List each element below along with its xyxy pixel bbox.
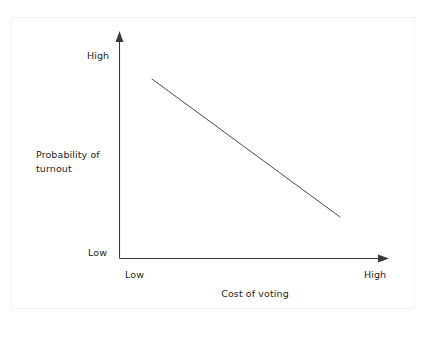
y-axis-tick-label-high: High — [87, 50, 109, 62]
x-axis-tick-label-high: High — [364, 269, 386, 281]
y-axis — [116, 31, 124, 259]
y-axis-title: Probability of turnout — [36, 148, 116, 175]
y-axis-tick-label-low: Low — [88, 247, 107, 259]
series-line-turnout-vs-cost — [152, 79, 340, 217]
y-axis-title-line-1: Probability of — [36, 149, 100, 160]
x-axis-title: Cost of voting — [120, 288, 390, 299]
y-axis-title-line-2: turnout — [36, 162, 116, 176]
x-axis-arrowhead — [378, 255, 389, 263]
y-axis-arrowhead — [116, 31, 124, 42]
chart-canvas: High Low Low High Probability of turnout… — [0, 0, 428, 338]
x-axis — [120, 255, 390, 263]
x-axis-tick-label-low: Low — [125, 269, 144, 281]
